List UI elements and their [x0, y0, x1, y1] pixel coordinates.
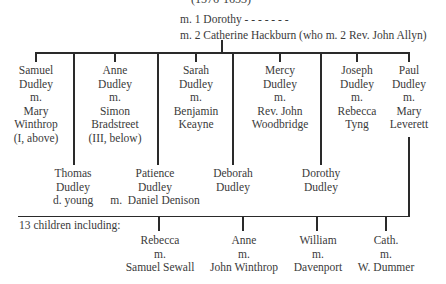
- drop-line-joseph: [356, 52, 358, 62]
- child-thomas: ThomasDudleyd. young: [53, 167, 93, 208]
- grandchildren-horizontal-line: [18, 216, 410, 218]
- drop-line-william: [316, 216, 318, 231]
- drop-line-dorothy: [320, 52, 322, 165]
- grandchildren-label: 13 children including:: [19, 219, 121, 233]
- child-sarah: SarahDudleym.BenjaminKeayne: [174, 64, 219, 132]
- child-patience: PatienceDudleym. Daniel Denison: [110, 167, 199, 208]
- drop-line-anne-g: [242, 216, 244, 231]
- first-marriage-label: m. 1 Dorothy - - - - - - -: [180, 13, 289, 27]
- children-horizontal-line: [35, 52, 409, 54]
- child-samuel: SamuelDudleym.MaryWinthrop(I, above): [14, 64, 59, 145]
- grandchild-anne: Annem.John Winthrop: [210, 234, 278, 275]
- child-deborah: DeborahDudley: [213, 167, 253, 194]
- drop-line-deborah: [232, 52, 234, 165]
- grandchild-william: Williamm.Davenport: [294, 234, 343, 275]
- child-mercy: MercyDudleym.Rev. JohnWoodbridge: [252, 64, 309, 132]
- child-anne: AnneDudleym.SimonBradstreet(III, below): [88, 64, 141, 145]
- drop-line-anne: [114, 52, 116, 62]
- drop-line-patience: [157, 52, 159, 165]
- child-paul: PaulDudleym.MaryLeverett: [390, 64, 428, 132]
- grandchild-rebecca: Rebeccam.Samuel Sewall: [126, 234, 195, 275]
- drop-line-thomas: [73, 52, 75, 165]
- drop-line-cath: [385, 216, 387, 231]
- drop-line-mercy: [279, 52, 281, 62]
- dates-label: (1576-1653): [191, 0, 251, 7]
- drop-line-paul-descendants: [408, 137, 410, 217]
- child-dorothy: DorothyDudley: [302, 167, 340, 194]
- drop-line-sarah: [195, 52, 197, 62]
- drop-line-samuel: [35, 52, 37, 62]
- second-marriage-label: m. 2 Catherine Hackburn (who m. 2 Rev. J…: [180, 29, 426, 43]
- grandchild-cath: Cath.m.W. Dummer: [358, 234, 414, 275]
- child-joseph: JosephDudleym.RebeccaTyng: [338, 64, 377, 132]
- drop-line-paul: [408, 52, 410, 62]
- drop-line-rebecca: [158, 216, 160, 231]
